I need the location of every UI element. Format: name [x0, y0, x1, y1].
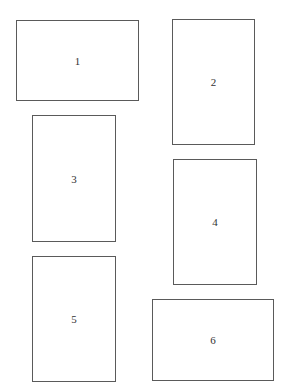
- box-label: 5: [71, 313, 77, 325]
- box-6: 6: [152, 299, 274, 381]
- box-label: 4: [212, 216, 218, 228]
- box-label: 3: [71, 173, 77, 185]
- box-2: 2: [172, 19, 255, 145]
- box-5: 5: [32, 256, 116, 382]
- box-1: 1: [16, 20, 139, 101]
- box-label: 2: [211, 76, 217, 88]
- box-4: 4: [173, 159, 257, 285]
- box-3: 3: [32, 115, 116, 242]
- box-label: 1: [75, 55, 81, 67]
- box-label: 6: [210, 334, 216, 346]
